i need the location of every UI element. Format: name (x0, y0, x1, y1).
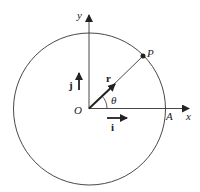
point-p-dot (141, 54, 146, 59)
circular-motion-diagram: y x O P A θ j i r (0, 0, 200, 192)
theta-arc (102, 96, 107, 109)
i-label: i (111, 121, 114, 133)
diagram-svg: y x O P A θ j i r (0, 0, 200, 192)
x-axis-label: x (185, 110, 191, 122)
origin-label: O (74, 104, 82, 116)
r-label: r (106, 72, 111, 84)
point-a-label: A (165, 110, 173, 122)
j-label: j (68, 79, 73, 91)
theta-label: θ (111, 94, 117, 106)
y-axis-label: y (76, 9, 82, 21)
point-p-label: P (146, 47, 154, 59)
